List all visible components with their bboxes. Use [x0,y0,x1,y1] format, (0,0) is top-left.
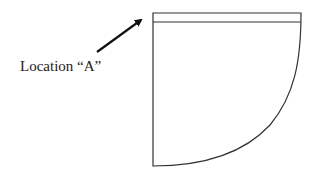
quarter-circle-shape [153,13,301,166]
diagram-canvas [0,0,316,178]
pointer-arrow [97,20,141,52]
location-a-label: Location “A” [20,58,101,75]
